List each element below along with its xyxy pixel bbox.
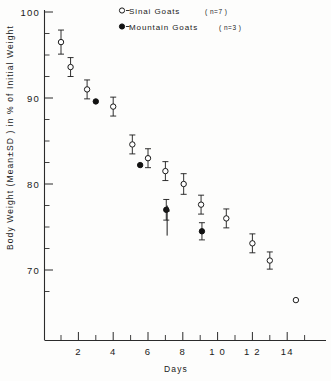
x-axis-ticks <box>61 332 305 341</box>
x-axis-tick-labels: 24681 01 214 <box>75 346 294 357</box>
marker-open-circle <box>224 216 229 221</box>
y-tick-label-100: 100 <box>21 7 40 18</box>
marker-open-circle <box>145 156 150 161</box>
data-point <box>68 58 74 77</box>
data-point <box>293 297 298 302</box>
x-axis-title: Days <box>164 364 188 374</box>
data-point <box>181 174 187 195</box>
legend-marker-mountain-goats <box>119 24 124 29</box>
x-tick-label-2: 2 <box>75 346 81 357</box>
y-tick-label-70: 70 <box>27 265 40 276</box>
x-tick-label-12: 1 2 <box>244 346 261 357</box>
marker-open-circle <box>58 39 63 44</box>
marker-open-circle <box>130 142 135 147</box>
data-point <box>249 234 255 253</box>
series-mountain-goats <box>93 99 205 240</box>
data-point <box>145 149 151 168</box>
legend-label-sinai-goats: Sinai Goats <box>129 7 180 16</box>
data-point <box>84 80 90 99</box>
legend-n-sinai-goats: ( n=7 ) <box>205 8 227 16</box>
data-point <box>58 30 64 54</box>
marker-open-circle <box>84 87 89 92</box>
data-point <box>93 99 98 104</box>
x-tick-label-10: 1 0 <box>209 346 226 357</box>
legend-marker-sinai-goats <box>119 8 124 13</box>
y-axis-ticks <box>45 12 54 292</box>
legend-label-mountain-goats: Mountain Goats <box>129 23 198 32</box>
data-point <box>162 162 168 181</box>
data-point <box>137 162 142 167</box>
data-point <box>199 223 205 240</box>
x-tick-label-8: 8 <box>180 346 186 357</box>
marker-open-circle <box>181 181 186 186</box>
series-sinai-goats <box>58 30 299 303</box>
y-tick-label-90: 90 <box>27 93 40 104</box>
marker-filled-circle <box>93 99 98 104</box>
marker-filled-circle <box>199 229 204 234</box>
x-tick-label-6: 6 <box>145 346 151 357</box>
scatter-plot-svg: 708090100 24681 01 214 Body Weight (Mean… <box>0 0 331 381</box>
data-point <box>267 252 273 269</box>
marker-open-circle <box>267 258 272 263</box>
data-point <box>223 209 229 228</box>
axis-lines <box>45 10 327 341</box>
legend-n-mountain-goats: ( n=3 ) <box>219 24 241 32</box>
data-point <box>198 195 204 214</box>
x-tick-label-14: 14 <box>281 346 294 357</box>
data-point <box>110 97 116 116</box>
y-tick-label-80: 80 <box>27 179 40 190</box>
legend: Sinai Goats ( n=7 ) Mountain Goats ( n=3… <box>119 7 241 32</box>
marker-open-circle <box>198 202 203 207</box>
marker-open-circle <box>293 297 298 302</box>
marker-open-circle <box>163 168 168 173</box>
marker-filled-circle <box>137 162 142 167</box>
marker-open-circle <box>250 241 255 246</box>
y-axis-tick-labels: 708090100 <box>21 7 40 276</box>
marker-open-circle <box>111 104 116 109</box>
y-axis-title: Body Weight (Mean±SD ) in % of Initial W… <box>5 25 15 250</box>
x-tick-label-4: 4 <box>110 346 116 357</box>
chart-figure: 708090100 24681 01 214 Body Weight (Mean… <box>0 0 331 381</box>
data-point <box>129 135 135 154</box>
marker-open-circle <box>68 64 73 69</box>
